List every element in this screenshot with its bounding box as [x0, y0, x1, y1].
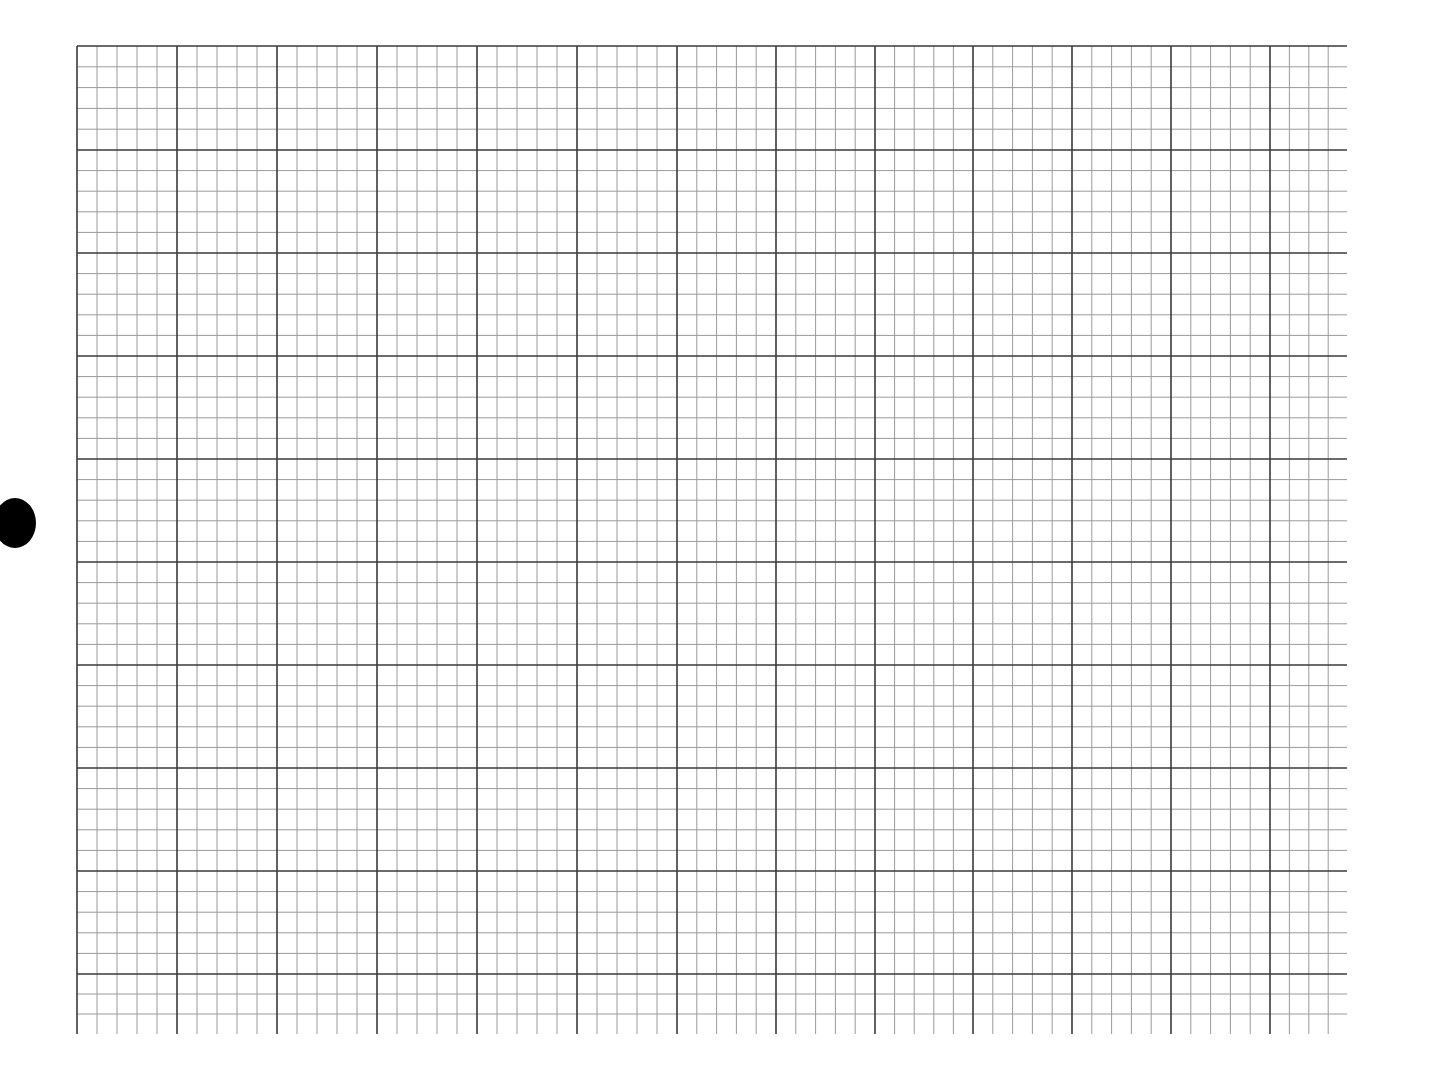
graph-paper-grid — [0, 0, 1429, 1086]
